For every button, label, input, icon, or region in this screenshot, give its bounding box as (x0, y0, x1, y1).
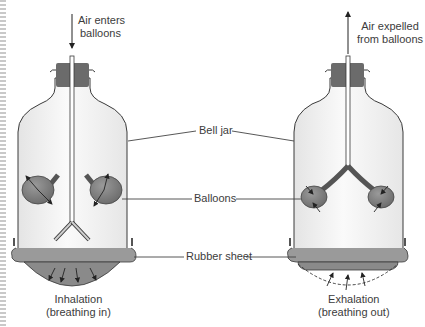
left-tube (70, 56, 74, 224)
right-tube (346, 56, 350, 166)
balloons-label: Balloons (194, 192, 236, 205)
air-expelled-label: Air expelled from balloons (357, 20, 423, 46)
bell-jar-label: Bell jar (199, 124, 233, 137)
air-enters-label: Air enters balloons (78, 14, 125, 40)
left-bell-jar (18, 56, 127, 252)
rubber-sheet-label: Rubber sheet (186, 250, 252, 263)
bell-jar-diagram (0, 0, 425, 327)
exhalation-caption: Exhalation (breathing out) (318, 293, 390, 319)
right-bell-jar (294, 56, 403, 252)
inhalation-caption: Inhalation (breathing in) (46, 293, 111, 319)
